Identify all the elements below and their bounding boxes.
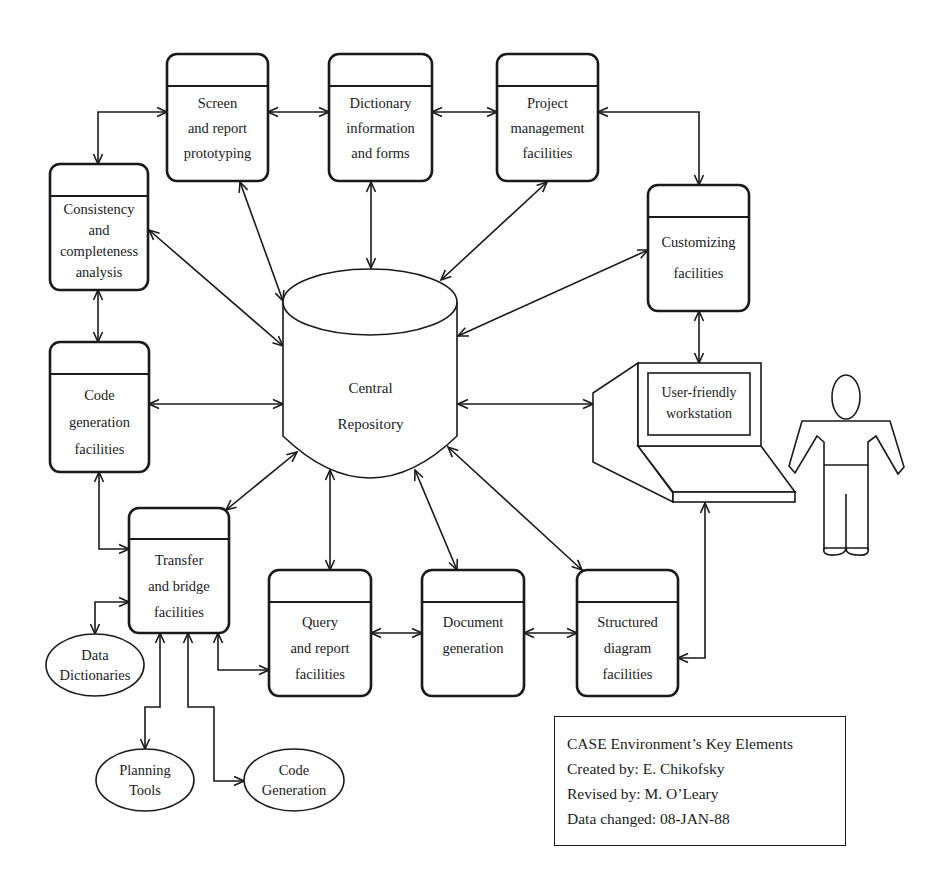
legend-box: CASE Environment’s Key Elements Created … (554, 716, 846, 846)
label-consistency-analysis: Consistency and completeness analysis (50, 199, 148, 283)
label-structured-diagram: Structured diagram facilities (577, 609, 678, 687)
connector-screen-repository (240, 182, 283, 301)
connector-document-repository (415, 470, 457, 570)
connector-structured-repository (448, 447, 582, 570)
connector-transfer-query (218, 633, 269, 670)
connector-project-customizing (598, 112, 699, 185)
label-workstation: User-friendly workstation (648, 382, 750, 424)
legend-revised-by: Revised by: M. O’Leary (567, 781, 845, 806)
connector-consistency-screen (98, 112, 167, 164)
legend-date-changed: Data changed: 08-JAN-88 (567, 806, 845, 831)
label-data-dictionaries: Data Dictionaries (46, 645, 144, 685)
connector-transfer-repository (226, 452, 297, 510)
label-code-generation: Code Generation (244, 760, 344, 800)
label-dictionary-information: Dictionary information and forms (329, 91, 432, 166)
connector-project-repository (441, 182, 547, 280)
label-project-management: Project management facilities (497, 91, 598, 166)
connector-structured-workstation (678, 503, 705, 658)
user-person-icon (789, 375, 904, 555)
connector-transfer-codegeneration (188, 633, 244, 781)
connector-transfer-planning (145, 633, 160, 749)
label-code-generation-facilities: Code generation facilities (50, 382, 149, 463)
legend-title: CASE Environment’s Key Elements (567, 731, 845, 756)
label-customizing: Customizing facilities (648, 227, 749, 289)
label-query-report: Query and report facilities (269, 609, 371, 687)
label-transfer-bridge: Transfer and bridge facilities (129, 547, 229, 625)
connector-transfer-datadict (95, 602, 129, 634)
label-central-repository: Central Repository (283, 370, 458, 442)
connector-codegen-transfer (99, 472, 129, 549)
label-planning-tools: Planning Tools (96, 760, 194, 800)
label-document-generation: Document generation (422, 609, 524, 661)
label-screen-prototyping: Screen and report prototyping (167, 91, 268, 166)
legend-created-by: Created by: E. Chikofsky (567, 756, 845, 781)
connector-customizing-repository (458, 250, 648, 336)
